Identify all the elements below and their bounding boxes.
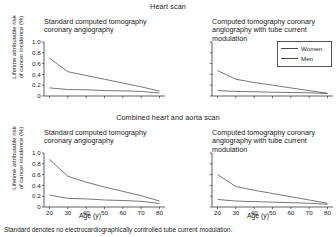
xaxis-title-right: Age (y) <box>198 212 318 219</box>
figure-footnote: Standard denotes no electrocardiographic… <box>4 226 232 233</box>
panel-combined-standard: Standard computed tomography coronary an… <box>8 129 168 221</box>
panel-heart-standard: Standard computed tomography coronary an… <box>8 18 168 110</box>
legend: Women Men <box>277 41 332 67</box>
figure-root: Heart scan Combined heart and aorta scan… <box>0 0 336 237</box>
svg-text:0.4: 0.4 <box>32 71 41 78</box>
legend-line-icon-men <box>281 58 298 59</box>
svg-text:0.8: 0.8 <box>32 49 41 56</box>
svg-text:0.2: 0.2 <box>32 192 41 199</box>
ylabel-line2-top: of cancer incidence (%) <box>18 8 25 86</box>
ylabel-line1-top: Lifetime attributable risk <box>11 8 18 86</box>
svg-text:0.6: 0.6 <box>32 60 41 67</box>
svg-text:0: 0 <box>37 203 41 210</box>
svg-text:0.4: 0.4 <box>32 182 41 189</box>
svg-text:1.0: 1.0 <box>32 38 41 45</box>
section-header-heart-scan: Heart scan <box>0 2 336 11</box>
legend-item-women: Women <box>281 43 322 53</box>
svg-text:80: 80 <box>156 209 163 216</box>
plot-combined-standard: 00.20.40.60.81.020304050607080 <box>8 129 168 221</box>
plot-combined-modulation: 20304050607080 <box>176 129 336 221</box>
plot-heart-standard: 00.20.40.60.81.0 <box>8 18 168 110</box>
svg-text:0.8: 0.8 <box>32 160 41 167</box>
legend-line-icon-women <box>281 48 298 49</box>
section-header-combined-scan: Combined heart and aorta scan <box>0 113 336 122</box>
svg-text:0.2: 0.2 <box>32 81 41 88</box>
svg-text:0.6: 0.6 <box>32 171 41 178</box>
svg-text:1.0: 1.0 <box>32 149 41 156</box>
legend-label-women: Women <box>301 45 322 52</box>
xaxis-title-left: Age (y) <box>30 212 150 219</box>
svg-text:80: 80 <box>324 209 331 216</box>
panel-combined-modulation: Computed tomography coronary angiography… <box>176 129 336 221</box>
legend-label-men: Men <box>301 55 313 62</box>
svg-text:0: 0 <box>37 92 41 99</box>
ylabel-line2-bottom: of cancer incidence (%) <box>18 119 25 197</box>
legend-item-men: Men <box>281 53 313 63</box>
ylabel-line1-bottom: Lifetime attributable risk <box>11 119 18 197</box>
